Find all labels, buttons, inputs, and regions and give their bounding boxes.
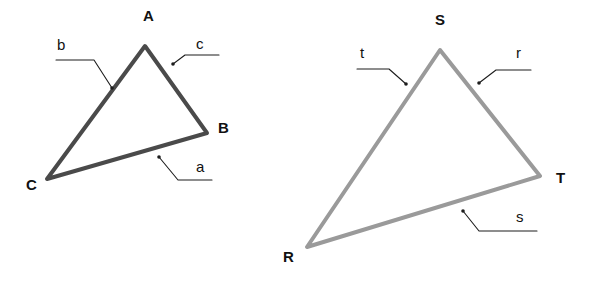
- leader-side-t: t: [357, 44, 408, 86]
- vertex-label-r: R: [283, 248, 294, 265]
- side-label-b: b: [57, 36, 65, 53]
- vertex-label-c: C: [26, 176, 37, 193]
- vertex-label-b: B: [218, 119, 229, 136]
- side-label-r: r: [516, 44, 521, 61]
- leader-side-s: s: [461, 208, 537, 231]
- vertex-label-a: A: [143, 7, 154, 24]
- side-label-c: c: [196, 35, 204, 52]
- side-label-s: s: [516, 208, 524, 225]
- leader-side-r: r: [477, 44, 531, 85]
- vertex-label-t: T: [556, 169, 565, 186]
- leader-side-c: c: [171, 35, 219, 66]
- diagram-canvas: A B C a b c S T R: [0, 0, 593, 282]
- leader-side-a: a: [157, 155, 212, 180]
- triangle-abc-shape: [47, 46, 207, 179]
- triangle-rst-group: S T R r s t: [283, 11, 565, 265]
- vertex-label-s: S: [435, 11, 445, 28]
- leader-side-b: b: [56, 36, 114, 90]
- side-label-t: t: [360, 44, 365, 61]
- side-label-a: a: [196, 158, 205, 175]
- triangles-figure: A B C a b c S T R: [0, 0, 593, 282]
- triangle-abc-group: A B C a b c: [26, 7, 229, 193]
- triangle-rst-shape: [307, 50, 540, 247]
